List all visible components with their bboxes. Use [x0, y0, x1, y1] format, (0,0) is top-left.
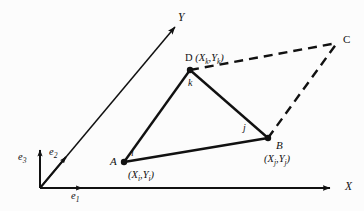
node-d-name: D: [185, 52, 193, 63]
edge-label-j: j: [243, 123, 246, 133]
basis-vector-e1-label: e1: [71, 191, 79, 204]
node-coord-a-open: (X: [128, 169, 138, 180]
node-coord-d-open: (X: [195, 52, 205, 63]
node-dot-b: [265, 135, 271, 141]
diagram-svg: [0, 0, 364, 211]
node-coord-b: (Xj,Yj): [264, 154, 290, 167]
figure-canvas: X Y e3 e2 e1 A (Xi,Yi) B (Xj,Yj) D (Xk,Y…: [0, 0, 364, 211]
node-dot-a: [121, 159, 127, 165]
edge-d-b: [190, 70, 268, 138]
node-coord-d-close: ): [220, 52, 224, 63]
y-axis-label: Y: [178, 12, 184, 24]
node-coord-a: (Xi,Yi): [128, 170, 154, 183]
node-coord-b-mid: ,Y: [276, 153, 284, 164]
edge-b-c-dashed: [268, 43, 337, 138]
x-axis-label: X: [345, 181, 352, 193]
basis-e2-sub: 2: [54, 151, 58, 160]
edge-label-k: k: [188, 78, 192, 88]
node-label-d: D (Xk,Yk): [185, 53, 224, 66]
node-label-b: B: [276, 140, 283, 151]
node-coord-d-mid: ,Y: [209, 52, 217, 63]
node-label-a: A: [110, 156, 117, 167]
node-label-c: C: [343, 34, 350, 45]
basis-vector-e2-line: [40, 157, 66, 188]
node-coord-b-open: (X: [264, 153, 274, 164]
edge-a-b: [124, 138, 268, 162]
node-dot-d: [187, 67, 193, 73]
basis-vector-e3-label: e3: [18, 152, 26, 165]
basis-e3-sub: 3: [23, 156, 27, 165]
basis-e1-sub: 1: [76, 195, 80, 204]
node-coord-b-close: ): [287, 153, 291, 164]
basis-vector-e2-label: e2: [49, 147, 57, 160]
edge-label-i: i: [131, 148, 134, 158]
node-coord-a-mid: ,Y: [140, 169, 148, 180]
node-coord-a-close: ): [151, 169, 155, 180]
